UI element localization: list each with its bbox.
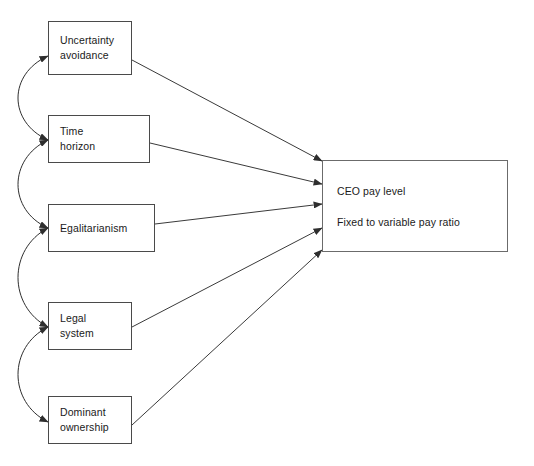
node-label-uncertainty-avoidance: Uncertainty avoidance [60, 33, 125, 63]
node-label-legal-system: Legal system [60, 311, 125, 341]
arrow-dominant-ownership-to-outcome [132, 250, 322, 425]
node-uncertainty-avoidance[interactable]: Uncertainty avoidance [48, 21, 132, 75]
node-time-horizon[interactable]: Time horizon [48, 115, 150, 163]
arrow-legal-system-to-outcome [132, 228, 322, 327]
diagram-canvas: Uncertainty avoidance Time horizon Egali… [0, 0, 534, 466]
arc-uncertainty-avoidance-time-horizon [18, 56, 48, 140]
causal-arrow-group [132, 60, 322, 425]
outcome-label-fixed-to-variable-pay-ratio: Fixed to variable pay ratio [337, 215, 499, 229]
arrow-egalitarianism-to-outcome [155, 204, 322, 224]
node-ceo-pay-outcomes[interactable]: CEO pay level Fixed to variable pay rati… [322, 160, 508, 252]
arc-legal-system-dominant-ownership [18, 327, 48, 422]
correlation-arc-group [18, 56, 48, 422]
node-legal-system[interactable]: Legal system [48, 302, 132, 350]
outcome-label-ceo-pay-level: CEO pay level [337, 184, 499, 198]
arc-time-horizon-egalitarianism [18, 140, 48, 228]
node-label-time-horizon: Time horizon [60, 124, 143, 154]
node-dominant-ownership[interactable]: Dominant ownership [48, 396, 132, 444]
node-label-dominant-ownership: Dominant ownership [60, 405, 125, 435]
node-label-egalitarianism: Egalitarianism [60, 221, 148, 236]
node-egalitarianism[interactable]: Egalitarianism [48, 204, 155, 252]
arc-egalitarianism-legal-system [18, 228, 48, 327]
arrow-time-horizon-to-outcome [150, 143, 322, 184]
